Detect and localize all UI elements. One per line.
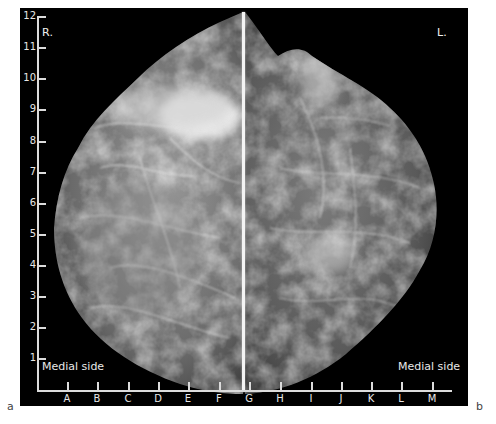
x-tick-label: E xyxy=(180,394,196,404)
x-tick-label: L xyxy=(393,394,409,404)
figure-panel-label-b: b xyxy=(476,400,483,413)
y-tick xyxy=(37,109,46,111)
y-tick-label: 1 xyxy=(20,353,36,363)
y-tick-label: 6 xyxy=(20,198,36,208)
y-tick-label: 3 xyxy=(20,291,36,301)
y-tick-label: 12 xyxy=(20,11,36,21)
y-tick xyxy=(37,296,46,298)
y-tick-label: 10 xyxy=(20,73,36,83)
y-tick xyxy=(37,47,46,49)
x-tick-label: J xyxy=(333,394,349,404)
y-tick xyxy=(37,234,46,236)
mammogram-panel: R. L. Medial side Medial side 1 2 3 4 5 … xyxy=(20,8,468,406)
y-tick xyxy=(37,327,46,329)
x-tick xyxy=(128,382,130,390)
y-tick xyxy=(37,16,46,18)
y-tick xyxy=(37,358,46,360)
medial-side-label-left: Medial side xyxy=(42,360,104,373)
x-tick xyxy=(371,382,373,390)
x-tick xyxy=(249,382,251,390)
medial-side-label-right: Medial side xyxy=(398,360,460,373)
x-tick xyxy=(219,382,221,390)
x-tick-label: C xyxy=(120,394,136,404)
y-tick-label: 5 xyxy=(20,229,36,239)
x-tick xyxy=(280,382,282,390)
x-tick-label: I xyxy=(303,394,319,404)
y-tick xyxy=(37,203,46,205)
center-divider-line xyxy=(242,12,245,392)
x-tick-label: H xyxy=(272,394,288,404)
y-tick xyxy=(37,78,46,80)
y-tick xyxy=(37,172,46,174)
x-tick-label: G xyxy=(241,394,257,404)
x-tick xyxy=(341,382,343,390)
x-tick xyxy=(67,382,69,390)
x-tick xyxy=(97,382,99,390)
x-tick-label: K xyxy=(363,394,379,404)
y-tick-label: 4 xyxy=(20,260,36,270)
x-tick xyxy=(311,382,313,390)
y-tick-label: 8 xyxy=(20,136,36,146)
figure-panel-label-a: a xyxy=(7,400,14,413)
x-tick xyxy=(188,382,190,390)
x-tick-label: B xyxy=(89,394,105,404)
y-tick-label: 11 xyxy=(20,42,36,52)
y-tick xyxy=(37,141,46,143)
x-tick-label: A xyxy=(59,394,75,404)
y-tick-label: 2 xyxy=(20,322,36,332)
right-breast-label: R. xyxy=(42,26,53,39)
y-tick-label: 7 xyxy=(20,167,36,177)
x-tick xyxy=(401,382,403,390)
y-tick xyxy=(37,265,46,267)
x-tick xyxy=(432,382,434,390)
x-tick-label: D xyxy=(150,394,166,404)
y-tick-label: 9 xyxy=(20,104,36,114)
x-axis-line xyxy=(37,390,452,392)
x-tick xyxy=(158,382,160,390)
x-tick-label: F xyxy=(211,394,227,404)
left-breast-label: L. xyxy=(437,26,447,39)
x-tick-label: M xyxy=(424,394,440,404)
